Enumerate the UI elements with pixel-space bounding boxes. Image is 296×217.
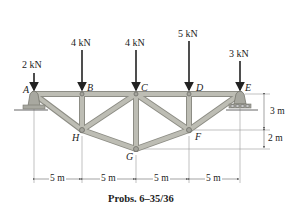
node-label-g: G <box>126 152 133 162</box>
node-label-c: C <box>141 83 148 93</box>
load-label-a: 2 kN <box>22 60 42 70</box>
dim-ab: 5 m <box>49 174 66 184</box>
figure-caption: Probs. 6–35/36 <box>108 194 174 205</box>
load-arrows <box>34 41 240 90</box>
node-label-d: D <box>196 83 203 93</box>
dim-de: 5 m <box>205 174 222 184</box>
load-label-e: 3 kN <box>229 49 249 59</box>
dim-vertical-3m: 3 m <box>270 107 285 117</box>
load-label-b: 4 kN <box>71 38 91 48</box>
truss-drawing <box>0 0 296 217</box>
load-label-d: 5 kN <box>178 29 198 39</box>
dim-cd: 5 m <box>153 174 170 184</box>
node-label-b: B <box>87 83 93 93</box>
node-label-e: E <box>245 83 251 93</box>
truss-diagram: 2 kN 4 kN 4 kN 5 kN 3 kN A B C D E F G H… <box>0 0 296 217</box>
dim-bc: 5 m <box>100 174 117 184</box>
load-label-c: 4 kN <box>125 38 145 48</box>
node-label-h: H <box>72 133 79 143</box>
node-label-f: F <box>195 132 201 142</box>
node-label-a: A <box>23 85 29 95</box>
dim-vertical-2m: 2 m <box>268 134 283 144</box>
